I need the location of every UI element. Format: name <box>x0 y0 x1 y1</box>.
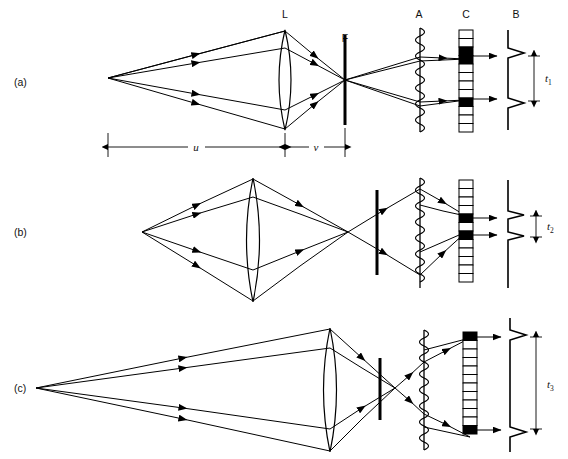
cell-a-3-on[interactable] <box>459 56 473 65</box>
ray-b-cv-2 <box>253 197 348 232</box>
cell-b-2[interactable] <box>459 197 473 206</box>
t2-label: t2 <box>547 220 554 235</box>
ray-b-in-1 <box>142 179 253 232</box>
t3-label: t3 <box>547 378 554 393</box>
cell-a-11[interactable] <box>459 124 473 133</box>
ray-bundle-c-incoming <box>36 329 330 451</box>
ray-c-in-3 <box>36 388 330 429</box>
cell-c-7[interactable] <box>463 392 477 401</box>
cell-c-0-on[interactable] <box>463 332 477 341</box>
cell-b-3[interactable] <box>459 206 473 215</box>
cell-b-1[interactable] <box>459 189 473 198</box>
ray-bundle-a-incoming <box>108 31 285 129</box>
detector-array-a[interactable] <box>459 30 473 132</box>
ray-b-in-2 <box>142 197 253 232</box>
cell-a-7[interactable] <box>459 90 473 99</box>
ray-c-in-2 <box>36 348 330 388</box>
t3-dimension: t3 <box>530 337 554 429</box>
ray-a-dv-2 <box>345 61 420 80</box>
cell-a-9[interactable] <box>459 107 473 116</box>
ray-c-dv-2 <box>395 388 424 414</box>
ray-bundle-c-converging <box>330 329 395 451</box>
cell-c-9[interactable] <box>463 409 477 418</box>
ray-bundle-b-incoming <box>142 179 253 301</box>
ray-b-dv-2 <box>348 232 420 275</box>
cell-c-6[interactable] <box>463 383 477 392</box>
ray-b-cv-1 <box>253 179 348 232</box>
ray-a-dv-1 <box>345 57 420 80</box>
lens-c-body <box>324 328 337 452</box>
cell-c-8[interactable] <box>463 400 477 409</box>
output-arrows-a <box>473 56 497 99</box>
cell-b-7[interactable] <box>459 240 473 249</box>
dim-label-u: u <box>193 141 199 153</box>
component-label-group: L F A C B <box>282 8 519 44</box>
ray-b-dv-1 <box>348 189 420 232</box>
cell-a-8-on[interactable] <box>459 98 473 107</box>
detector-array-c[interactable] <box>463 332 477 434</box>
lens-b-body <box>247 178 260 302</box>
lens-a-body <box>279 30 291 130</box>
ray-a-in-1b <box>108 31 285 78</box>
label-lens-L: L <box>282 8 288 20</box>
ray-b-in-3 <box>142 232 253 270</box>
panel-label-a: (a) <box>14 76 27 88</box>
signal-trace-a <box>508 30 524 130</box>
cell-a-1[interactable] <box>459 39 473 48</box>
ray-bundle-a-diverging <box>345 57 420 106</box>
t1-dimension: t1 <box>528 56 552 101</box>
t2-dimension: t2 <box>530 216 554 237</box>
cell-c-10[interactable] <box>463 417 477 426</box>
detector-array-b[interactable] <box>459 180 473 282</box>
cell-c-3[interactable] <box>463 358 477 367</box>
ray-a-in-2 <box>108 48 285 78</box>
ray-a-in-4 <box>108 78 285 129</box>
cell-c-11-on[interactable] <box>463 426 477 435</box>
cell-c-2[interactable] <box>463 349 477 358</box>
ray-c-in-4 <box>36 388 330 451</box>
ray-b-cv-3 <box>253 232 348 270</box>
cell-a-6[interactable] <box>459 81 473 90</box>
ray-bundle-b-diverging <box>348 189 420 275</box>
label-coil-A: A <box>415 8 422 20</box>
t1-label: t1 <box>545 72 552 87</box>
lens-a <box>279 30 291 130</box>
output-arrows-b <box>473 218 497 235</box>
cell-b-0[interactable] <box>459 180 473 189</box>
cell-c-1[interactable] <box>463 341 477 350</box>
panel-b: (b) <box>14 178 554 302</box>
label-array-C: C <box>462 8 470 20</box>
cell-b-5[interactable] <box>459 223 473 232</box>
cell-a-5[interactable] <box>459 73 473 82</box>
panel-c: (c) <box>14 318 554 452</box>
ray-c-in-1 <box>36 329 330 388</box>
ray-a-in-3 <box>108 78 285 110</box>
cell-a-4[interactable] <box>459 64 473 73</box>
lens-c <box>324 328 337 452</box>
cell-b-10[interactable] <box>459 265 473 274</box>
figure-root: L F A C B (a) <box>0 0 568 459</box>
ray-a-cv-1 <box>285 31 345 80</box>
ray-c-cv-1 <box>330 329 395 388</box>
cell-c-5[interactable] <box>463 375 477 384</box>
cell-b-6-on[interactable] <box>459 231 473 240</box>
optical-ray-diagram: L F A C B (a) <box>0 0 568 459</box>
ray-a-cv-3 <box>285 80 345 110</box>
cell-b-4-on[interactable] <box>459 214 473 223</box>
panel-label-c: (c) <box>14 382 26 394</box>
cell-a-2-on[interactable] <box>459 47 473 56</box>
cell-b-11[interactable] <box>459 274 473 283</box>
ray-a-cv-2 <box>285 48 345 80</box>
panel-label-b: (b) <box>14 226 27 238</box>
lens-b <box>247 178 260 302</box>
label-trace-B: B <box>512 8 519 20</box>
cell-a-0[interactable] <box>459 30 473 39</box>
cell-b-9[interactable] <box>459 257 473 266</box>
cell-b-8[interactable] <box>459 248 473 257</box>
signal-trace-c <box>510 318 526 452</box>
panel-a: (a) <box>14 28 552 157</box>
ray-a-cv-4 <box>285 80 345 129</box>
cell-c-4[interactable] <box>463 366 477 375</box>
ray-bundle-b-converging <box>253 179 348 301</box>
cell-a-10[interactable] <box>459 115 473 124</box>
